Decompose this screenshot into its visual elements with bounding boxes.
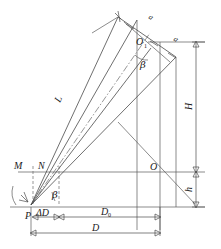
label-point-N: N	[37, 160, 46, 171]
upper-right-diagonal-segment-a	[118, 17, 176, 57]
geometry-figure: M N O P O 1 L a a β β H h ΔD D 0 D	[0, 0, 221, 249]
label-angle-beta-lower: β	[51, 189, 58, 200]
label-height-h: h	[183, 187, 194, 192]
label-point-P: P	[24, 210, 31, 221]
sight-line-P-to-O1	[31, 48, 151, 205]
label-slant-L: L	[51, 94, 64, 105]
label-height-H: H	[183, 102, 194, 111]
label-point-M: M	[13, 160, 23, 171]
label-point-O1: O	[136, 36, 143, 47]
sweep-arc-near-P	[12, 186, 16, 205]
label-point-O1-subscript: 1	[144, 43, 147, 49]
sweep-arrowhead-near-P	[19, 192, 28, 202]
diagram-root: M N O P O 1 L a a β β H h ΔD D 0 D	[0, 0, 221, 249]
label-delta-D: ΔD	[35, 207, 50, 218]
center-sight-line-dashdot	[31, 33, 150, 205]
tick-a-lower-end	[168, 53, 176, 58]
label-distance-D0-subscript: 0	[108, 212, 111, 218]
sight-line-P-to-upper-apex	[31, 17, 118, 205]
arrowhead-top-apex	[115, 11, 121, 22]
label-point-O: O	[150, 161, 157, 172]
label-distance-D: D	[91, 222, 100, 233]
tick-a-upper-start	[126, 24, 134, 29]
label-angle-beta-upper: β	[139, 59, 146, 70]
label-segment-a-upper: a	[147, 12, 155, 22]
label-segment-a-lower: a	[172, 34, 180, 44]
